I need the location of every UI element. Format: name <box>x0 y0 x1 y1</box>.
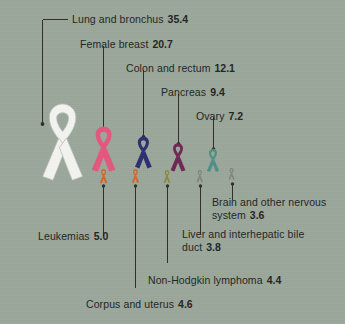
leader-dot-leukemias <box>102 184 105 187</box>
label-leukemias-text: Leukemias <box>38 230 90 242</box>
leader-dot-liver <box>199 184 202 187</box>
ribbon-brain-and-nervous-system <box>228 168 234 180</box>
cancer-deaths-infographic: Lung and bronchus35.4 Female breast20.7 … <box>0 0 345 324</box>
ribbon-female-breast <box>92 127 116 172</box>
ribbon-non-hodgkin-lymphoma <box>164 170 171 183</box>
label-pancreas-value: 9.4 <box>210 86 225 98</box>
label-female-breast: Female breast20.7 <box>80 38 173 51</box>
leader-dot-lung <box>41 122 45 126</box>
label-brain-and-nervous-system: Brain and other nervous system3.6 <box>212 196 340 221</box>
ribbon-ovary <box>207 149 219 172</box>
label-corpus-and-uterus: Corpus and uterus4.6 <box>86 298 193 311</box>
label-breast-value: 20.7 <box>152 38 172 50</box>
ribbon-lung-and-bronchus <box>43 104 83 180</box>
label-liver-and-bile-duct: Liver and interhepatic bile duct3.8 <box>182 228 312 253</box>
ribbon-colon-and-rectum <box>135 136 152 168</box>
label-colon-text: Colon and rectum <box>126 62 210 74</box>
label-ovary: Ovary7.2 <box>196 110 243 123</box>
label-pancreas-text: Pancreas <box>161 86 206 98</box>
label-lymphoma-text: Non-Hodgkin lymphoma <box>148 274 263 286</box>
leader-dot-brain <box>231 182 234 185</box>
label-lymphoma-value: 4.4 <box>267 274 282 286</box>
label-liver-text: Liver and interhepatic bile duct <box>182 228 304 253</box>
label-brain-value: 3.6 <box>250 209 265 221</box>
leader-dot-corpus <box>134 184 137 187</box>
leader-dot-lymphoma <box>166 184 169 187</box>
label-non-hodgkin-lymphoma: Non-Hodgkin lymphoma4.4 <box>148 274 281 287</box>
label-lung-text: Lung and bronchus <box>72 13 164 25</box>
leader-dots-bottom <box>102 182 234 187</box>
label-corpus-value: 4.6 <box>178 298 193 310</box>
label-leukemias-value: 5.0 <box>94 230 109 242</box>
label-lung-value: 35.4 <box>168 13 188 25</box>
ribbon-pancreas <box>171 143 186 171</box>
label-leukemias: Leukemias5.0 <box>38 230 108 243</box>
label-colon-and-rectum: Colon and rectum12.1 <box>126 62 235 75</box>
label-breast-text: Female breast <box>80 38 148 50</box>
ribbon-liver-and-bile-duct <box>197 170 203 182</box>
label-ovary-value: 7.2 <box>229 110 244 122</box>
label-colon-value: 12.1 <box>214 62 234 74</box>
label-brain-text: Brain and other nervous system <box>212 196 326 221</box>
ribbon-leukemias <box>100 169 108 183</box>
label-liver-value: 3.8 <box>206 241 221 253</box>
label-lung-and-bronchus: Lung and bronchus35.4 <box>72 13 188 26</box>
ribbon-corpus-and-uterus <box>132 169 139 183</box>
label-corpus-text: Corpus and uterus <box>86 298 174 310</box>
label-ovary-text: Ovary <box>196 110 225 122</box>
label-pancreas: Pancreas9.4 <box>161 86 225 99</box>
